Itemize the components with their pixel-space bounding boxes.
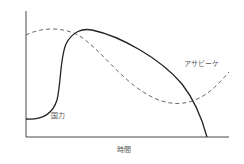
series-solid-line: [26, 30, 207, 137]
line-chart: [0, 0, 244, 164]
solid-series-label: 国力: [51, 113, 65, 120]
x-axis-label: 時間: [117, 147, 131, 154]
dashed-series-label: アサビーケ: [184, 61, 219, 68]
